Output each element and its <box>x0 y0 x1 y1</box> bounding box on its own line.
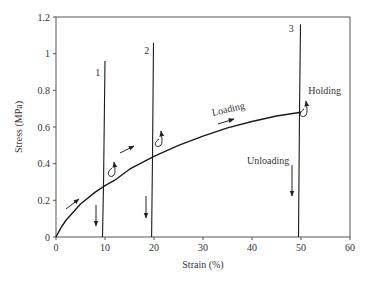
annotations: 123LoadingHoldingUnloading <box>95 23 341 166</box>
relaxation-line-3 <box>299 24 301 237</box>
y-tick-label: 0.6 <box>38 122 51 133</box>
loading-arrow-icon <box>120 146 134 153</box>
x-tick-label: 50 <box>296 242 306 253</box>
x-axis-ticks: 0102030405060 <box>54 237 356 253</box>
x-tick-label: 60 <box>345 242 355 253</box>
y-tick-label: 0.4 <box>38 158 51 169</box>
plot-frame <box>56 17 350 237</box>
annotation-unloading: Unloading <box>247 155 289 166</box>
loading-arrow-icon <box>218 119 234 124</box>
annotation-1: 1 <box>95 67 100 78</box>
x-tick-label: 0 <box>54 242 59 253</box>
annotation-3: 3 <box>289 23 294 34</box>
holding-curl-arrow-icon <box>300 101 307 116</box>
stress-strain-chart: 0102030405060 00.20.40.60.811.2 Strain (… <box>0 0 369 284</box>
y-tick-label: 1.2 <box>38 12 51 23</box>
x-axis-title: Strain (%) <box>182 259 223 271</box>
holding-curl-arrow-icon <box>108 162 115 176</box>
annotation-2: 2 <box>144 45 149 56</box>
loading-curve <box>56 112 301 237</box>
relaxation-line-2 <box>152 43 154 237</box>
x-tick-label: 40 <box>247 242 257 253</box>
x-tick-label: 30 <box>198 242 208 253</box>
y-tick-label: 0 <box>45 232 50 243</box>
y-axis-title: Stress (MPa) <box>13 101 25 153</box>
y-tick-label: 0.2 <box>38 195 51 206</box>
data-series <box>56 24 301 237</box>
annotation-holding: Holding <box>308 85 341 96</box>
holding-curl-arrow-icon <box>155 131 162 146</box>
x-tick-label: 10 <box>100 242 110 253</box>
y-tick-label: 1 <box>45 48 50 59</box>
y-axis-ticks: 00.20.40.60.811.2 <box>38 12 57 243</box>
x-tick-label: 20 <box>149 242 159 253</box>
relaxation-line-1 <box>103 61 106 237</box>
annotation-loading: Loading <box>211 100 246 118</box>
y-tick-label: 0.8 <box>38 85 51 96</box>
